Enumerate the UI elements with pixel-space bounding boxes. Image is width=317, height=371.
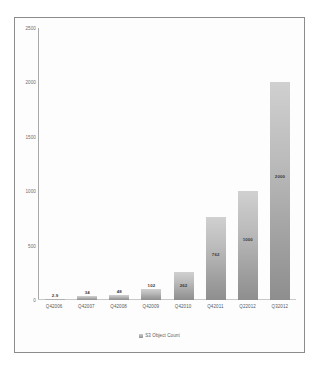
chart-legend: S3 Object Count: [15, 333, 304, 338]
bar[interactable]: 102: [141, 289, 161, 300]
x-tick-label: Q22012: [232, 304, 264, 316]
x-tick-label: Q42007: [70, 304, 102, 316]
bar[interactable]: 262: [174, 272, 194, 301]
y-tick-label: 0: [33, 298, 36, 303]
bar[interactable]: 762: [206, 217, 226, 300]
bar-value-label: 1000: [243, 237, 253, 242]
bar-value-label: 102: [148, 283, 156, 288]
legend-swatch-icon: [139, 334, 143, 338]
bar[interactable]: 34: [77, 296, 97, 300]
bar-series: 2.9344810226276210002000: [39, 28, 296, 300]
bar-slot[interactable]: 2.9: [39, 28, 71, 300]
x-tick-label: Q42009: [135, 304, 167, 316]
bar-value-label: 2000: [275, 174, 285, 179]
plot-area: 25002000150010005000 2.93448102262762100…: [39, 28, 296, 300]
y-tick-label: 1500: [25, 134, 36, 139]
y-tick-label: 2500: [25, 26, 36, 31]
bar-slot[interactable]: 102: [135, 28, 167, 300]
x-tick-label: Q42010: [167, 304, 199, 316]
bar-slot[interactable]: 262: [168, 28, 200, 300]
bar-slot[interactable]: 2000: [264, 28, 296, 300]
x-tick-label: Q42006: [38, 304, 70, 316]
bar-value-label: 48: [117, 289, 122, 294]
bar-slot[interactable]: 34: [71, 28, 103, 300]
bar-value-label: 2.9: [52, 293, 58, 298]
x-tick-label: Q42011: [199, 304, 231, 316]
bar-slot[interactable]: 48: [103, 28, 135, 300]
bar[interactable]: 1000: [238, 191, 258, 300]
y-tick-label: 500: [28, 243, 36, 248]
bar-value-label: 262: [180, 283, 188, 288]
y-tick-label: 1000: [25, 189, 36, 194]
bar[interactable]: 48: [109, 295, 129, 300]
bar-value-label: 762: [212, 252, 220, 257]
x-axis-tick-labels: Q42006Q42007Q42008Q42009Q42010Q42011Q220…: [38, 304, 296, 316]
legend-label: S3 Object Count: [145, 333, 180, 338]
chart-figure: 25002000150010005000 2.93448102262762100…: [14, 17, 305, 353]
bar-value-label: 34: [85, 290, 90, 295]
bar-slot[interactable]: 1000: [232, 28, 264, 300]
bar-slot[interactable]: 762: [200, 28, 232, 300]
x-tick-label: Q32012: [264, 304, 296, 316]
x-tick-label: Q42008: [103, 304, 135, 316]
y-tick-label: 2000: [25, 80, 36, 85]
bar[interactable]: 2.9: [45, 299, 65, 300]
bar[interactable]: 2000: [270, 82, 290, 300]
